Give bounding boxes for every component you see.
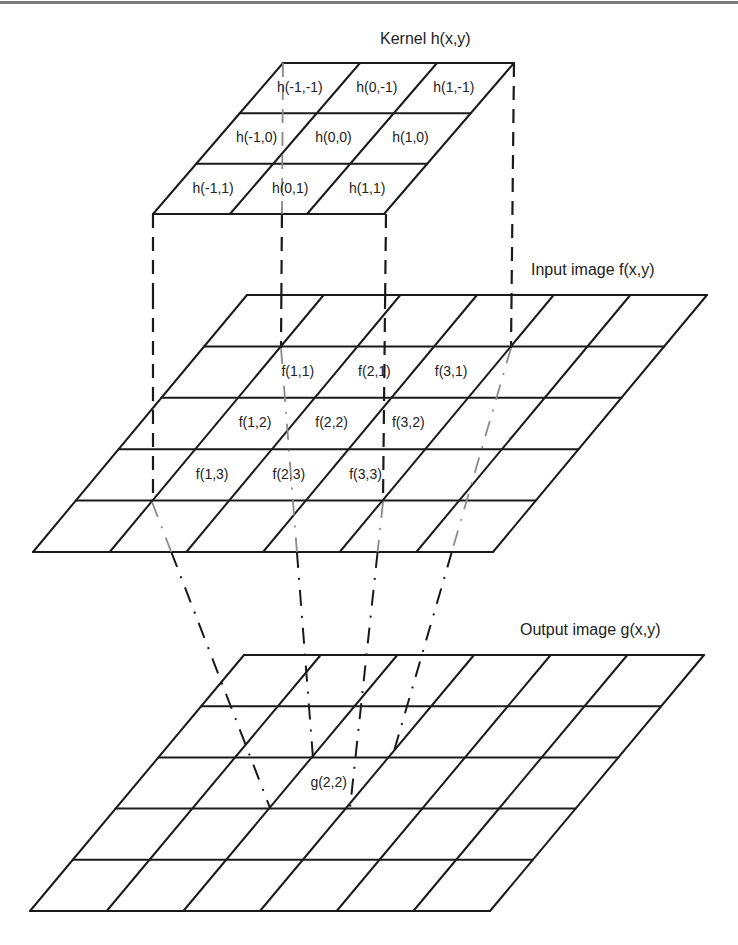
kernel-cell-label: h(-1,1)	[193, 180, 234, 196]
output-cell-label: g(2,2)	[310, 774, 347, 790]
input-cell-label: f(2,3)	[273, 466, 306, 482]
kernel-cell-label: h(0,1)	[272, 180, 309, 196]
input-cell-label: f(2,1)	[358, 363, 391, 379]
kernel-cell-label: h(1,-1)	[433, 79, 474, 95]
input-image-grid: f(1,1)f(2,1)f(3,1)f(1,2)f(2,2)f(3,2)f(1,…	[33, 295, 707, 552]
input-cell-label: f(3,1)	[435, 363, 468, 379]
kernel-cell-label: h(0,0)	[315, 129, 352, 145]
input-cell-label: f(1,2)	[239, 414, 272, 430]
kernel-cell-label: h(0,-1)	[356, 79, 397, 95]
convolution-diagram: g(2,2) f(1,1)f(2,1)f(3,1)f(1,2)f(2,2)f(3…	[0, 0, 738, 945]
input-image-title: Input image f(x,y)	[531, 261, 655, 278]
input-cell-label: f(3,2)	[392, 414, 425, 430]
input-cell-label: f(1,1)	[281, 363, 314, 379]
kernel-cell-label: h(1,0)	[392, 129, 429, 145]
projection-line-kernel-to-input	[512, 63, 514, 295]
output-image-grid: g(2,2)	[30, 655, 704, 911]
kernel-cell-label: h(-1,0)	[236, 129, 277, 145]
input-cell-label: f(2,2)	[315, 414, 348, 430]
kernel-grid: h(-1,-1)h(0,-1)h(1,-1)h(-1,0)h(0,0)h(1,0…	[153, 63, 514, 214]
input-cell-label: f(3,3)	[349, 466, 382, 482]
input-cell-label: f(1,3)	[196, 466, 229, 482]
projection-line-kernel-to-input	[281, 214, 282, 295]
projection-line-kernel-to-input	[385, 214, 386, 295]
kernel-title: Kernel h(x,y)	[380, 30, 471, 47]
kernel-cell-label: h(1,1)	[349, 180, 386, 196]
output-image-title: Output image g(x,y)	[520, 621, 661, 638]
kernel-cell-label: h(-1,-1)	[277, 79, 323, 95]
